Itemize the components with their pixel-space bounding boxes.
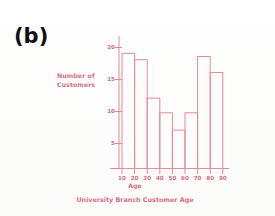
- y-tick-label-5: 5: [101, 140, 115, 146]
- histogram-chart: 20 15 10 5 10 20 30 40 50 60 70 80 90 Nu…: [0, 0, 275, 216]
- figure-page: (b): [0, 0, 275, 216]
- y-axis-title-line2: Customers: [57, 81, 95, 88]
- y-axis-title: Number ofCustomers: [57, 72, 107, 89]
- histogram-bars: [122, 53, 223, 168]
- y-tick-label-10: 10: [101, 108, 115, 114]
- figure-caption: University Branch Customer Age: [0, 196, 275, 204]
- y-axis-title-line1: Number of: [57, 72, 95, 79]
- x-axis-title: Age: [0, 182, 275, 189]
- x-tick-label-90: 90: [216, 175, 230, 181]
- y-tick-label-20: 20: [101, 44, 115, 50]
